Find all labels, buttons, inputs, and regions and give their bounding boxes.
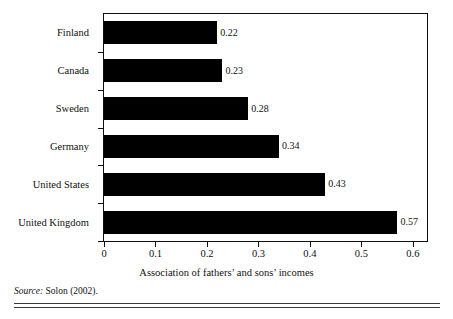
x-axis-tick — [413, 242, 414, 247]
bar-value-label: 0.28 — [248, 104, 269, 114]
x-axis-tick — [104, 242, 105, 247]
bar — [104, 211, 397, 234]
bar-value-label: 0.43 — [325, 179, 346, 189]
x-axis-tick-label: 0.1 — [149, 249, 162, 260]
x-axis-tick-label: 0 — [101, 249, 106, 260]
x-axis-tick — [258, 242, 259, 247]
x-axis-tick-label: 0.4 — [303, 249, 316, 260]
y-axis-tick-label: Sweden — [56, 97, 89, 120]
bottom-rule-upper — [14, 303, 440, 304]
bar-row: 0.28 — [104, 97, 427, 120]
y-axis-tick-label: Finland — [57, 21, 89, 44]
bar — [104, 135, 279, 158]
bar-row: 0.23 — [104, 59, 427, 82]
x-axis-tick — [361, 242, 362, 247]
bar — [104, 59, 222, 82]
y-axis-tick-label: Canada — [58, 59, 90, 82]
y-axis-tick-label: United States — [33, 173, 89, 196]
figure-container: FinlandCanadaSwedenGermanyUnited StatesU… — [0, 0, 453, 319]
y-axis-tick — [98, 52, 103, 53]
bar-value-label: 0.22 — [217, 28, 238, 38]
clipped-title-remnant — [104, 0, 364, 3]
x-axis-tick — [310, 242, 311, 247]
source-label: Source: — [14, 286, 43, 296]
y-axis-tick — [98, 128, 103, 129]
bar — [104, 173, 325, 196]
bottom-rule-lower — [14, 307, 440, 308]
bar-value-label: 0.34 — [279, 141, 300, 151]
x-axis-tick — [155, 242, 156, 247]
bar-row: 0.43 — [104, 173, 427, 196]
bars-layer: 0.220.230.280.340.430.57 — [104, 14, 427, 241]
bar — [104, 21, 217, 44]
source-citation: Solon (2002). — [43, 286, 98, 296]
x-axis-tick-label: 0.6 — [406, 249, 419, 260]
y-axis-tick — [98, 165, 103, 166]
x-axis-tick-label: 0.2 — [200, 249, 213, 260]
x-axis-tick-label: 0.3 — [252, 249, 265, 260]
y-axis-tick-label: Germany — [50, 135, 89, 158]
source-note: Source: Solon (2002). — [14, 286, 98, 296]
x-axis-tick — [207, 242, 208, 247]
y-axis-labels: FinlandCanadaSwedenGermanyUnited StatesU… — [0, 14, 98, 241]
bar-value-label: 0.57 — [397, 217, 418, 227]
x-axis-tick-label: 0.5 — [355, 249, 368, 260]
y-axis-tick — [98, 203, 103, 204]
bar-row: 0.57 — [104, 211, 427, 234]
y-axis-tick — [98, 90, 103, 91]
bar-row: 0.34 — [104, 135, 427, 158]
bar — [104, 97, 248, 120]
y-axis-tick-label: United Kingdom — [18, 211, 89, 234]
bar-value-label: 0.23 — [222, 66, 243, 76]
y-axis-tick — [98, 241, 103, 242]
bar-row: 0.22 — [104, 21, 427, 44]
x-axis-title: Association of fathers’ and sons’ income… — [0, 267, 453, 279]
